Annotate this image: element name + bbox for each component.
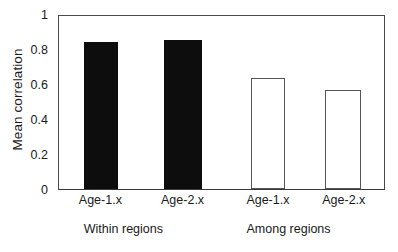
x-axis-category-labels: Age-1.xAge-2.xAge-1.xAge-2.x [58, 193, 385, 213]
bars-layer [59, 16, 384, 189]
x-axis-category-label: Age-1.x [79, 193, 122, 207]
x-axis-category-label: Age-1.x [246, 193, 289, 207]
x-axis-group-label: Among regions [246, 222, 330, 236]
y-axis-tick-label: 0.2 [22, 148, 54, 162]
y-axis-tick-label: 0.6 [22, 78, 54, 92]
y-axis-tick-label: 0.4 [22, 113, 54, 127]
y-axis-tick-label: 0 [22, 183, 54, 197]
bar [84, 42, 119, 189]
x-axis-category-label: Age-2.x [161, 193, 204, 207]
x-axis-group-labels: Within regionsAmong regions [58, 222, 385, 242]
bar [325, 90, 361, 189]
y-axis-tick-label: 0.8 [22, 43, 54, 57]
y-axis-tick-label: 1 [22, 8, 54, 22]
x-axis-group-label: Within regions [84, 222, 163, 236]
y-axis-tick-labels: 00.20.40.60.81 [22, 0, 54, 252]
bar-chart-figure: Mean correlation 00.20.40.60.81 Age-1.xA… [0, 0, 398, 252]
bar [251, 78, 285, 189]
plot-area [58, 15, 385, 190]
x-axis-category-label: Age-2.x [322, 193, 365, 207]
bar [164, 40, 202, 189]
